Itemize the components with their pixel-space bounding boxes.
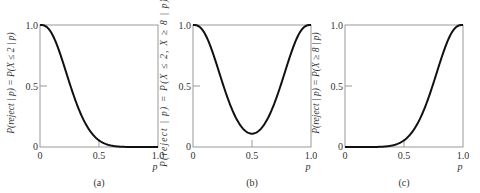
x-tick-label: 1.0	[305, 150, 318, 161]
x-tick-label: 0	[38, 150, 43, 161]
y-tick-label: 0.5	[179, 81, 192, 92]
x-tick-label: 0	[191, 150, 196, 161]
y-tick-label: 1.0	[179, 20, 192, 31]
oc-curve	[40, 25, 158, 147]
x-axis-label: p	[152, 161, 158, 172]
plot-frame	[345, 25, 463, 147]
y-tick-label: 1.0	[331, 20, 344, 31]
x-axis-label: p	[305, 161, 311, 172]
plot-frame	[193, 25, 311, 147]
panel-caption: (b)	[246, 177, 258, 189]
x-tick-label: 0.5	[93, 150, 106, 161]
y-tick-label: 1.0	[26, 20, 39, 31]
y-tick-label: 0.5	[26, 81, 39, 92]
oc-curve	[193, 25, 311, 134]
panel-caption: (a)	[93, 177, 104, 189]
plot-frame	[40, 25, 158, 147]
panel-caption: (c)	[398, 177, 409, 189]
x-tick-label: 0	[343, 150, 348, 161]
x-tick-label: 0.5	[398, 150, 411, 161]
y-axis-label: P(reject | p) = P(X ≤ 2, X ≥ 8 | p)	[159, 0, 170, 168]
y-tick-label: 0.5	[331, 81, 344, 92]
oc-curve	[345, 25, 463, 147]
x-axis-label: p	[457, 161, 463, 172]
y-axis-label: P(reject | p) = P(X ≥ 8 | p)	[311, 32, 322, 134]
chart-panel-b: 1.00.5000.51.0p(b)P(reject | p) = P(X ≤ …	[159, 0, 317, 189]
chart-panel-c: 1.00.5000.51.0p(c)P(reject | p) = P(X ≥ …	[311, 20, 469, 189]
x-tick-label: 1.0	[457, 150, 470, 161]
figure: 1.00.5000.51.0p(a)P(reject | p) = P(X ≤ …	[0, 0, 480, 193]
y-axis-label: P(reject | p) = P(X ≤ 2 | p)	[6, 32, 17, 134]
x-tick-label: 0.5	[246, 150, 259, 161]
chart-panel-a: 1.00.5000.51.0p(a)P(reject | p) = P(X ≤ …	[6, 20, 164, 189]
